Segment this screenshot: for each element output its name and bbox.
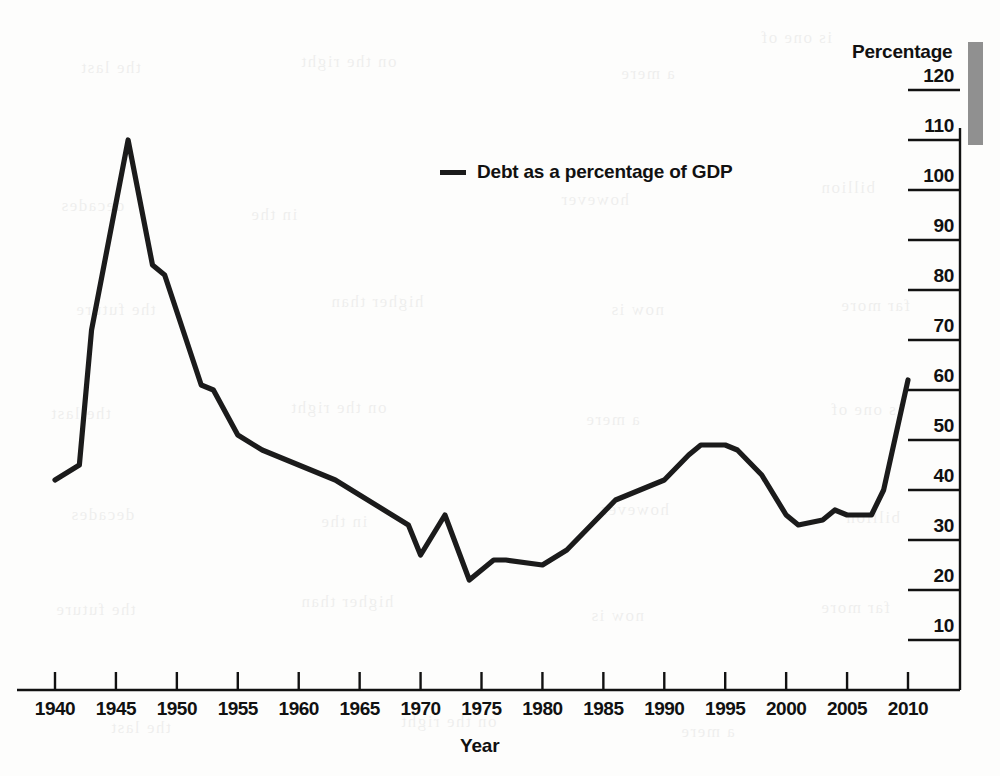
y-tick-label-10: 10: [908, 615, 954, 637]
plot-area: [0, 0, 1000, 776]
y-tick-label-100: 100: [908, 165, 954, 187]
y-tick-label-40: 40: [908, 465, 954, 487]
y-tick-label-20: 20: [908, 565, 954, 587]
y-tick-label-70: 70: [908, 315, 954, 337]
y-tick-label-110: 110: [908, 115, 954, 137]
y-tick-label-80: 80: [908, 265, 954, 287]
y-tick-label-120: 120: [908, 65, 954, 87]
y-tick-label-30: 30: [908, 515, 954, 537]
x-tick-label-2010: 2010: [868, 698, 948, 720]
y-tick-label-50: 50: [908, 415, 954, 437]
y-tick-label-60: 60: [908, 365, 954, 387]
y-tick-label-90: 90: [908, 215, 954, 237]
debt-gdp-chart-figure: the laston the righta mereis one ofdecad…: [0, 0, 1000, 776]
series-line-0: [55, 140, 908, 580]
